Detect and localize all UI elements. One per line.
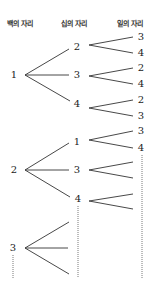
ones-digit: 3	[138, 126, 144, 136]
hundreds-digit: 1	[11, 70, 17, 80]
ones-digit: 2	[138, 63, 144, 73]
ones-digit: 3	[138, 32, 144, 42]
tens-digit: 2	[74, 42, 80, 52]
hundreds-digit: 3	[10, 243, 16, 253]
tens-digit: 3	[74, 70, 80, 80]
tens-digit: 1	[74, 137, 80, 147]
ones-digit: 3	[138, 111, 144, 121]
ones-digit: 4	[138, 79, 144, 89]
ones-digit: 2	[138, 95, 144, 105]
hundreds-digit: 2	[11, 165, 17, 175]
ones-digit: 4	[138, 48, 144, 58]
tens-digit: 3	[74, 165, 80, 175]
tens-digit: 4	[74, 99, 80, 109]
tens-digit: 4	[75, 194, 81, 204]
ones-digit: 4	[138, 143, 144, 153]
